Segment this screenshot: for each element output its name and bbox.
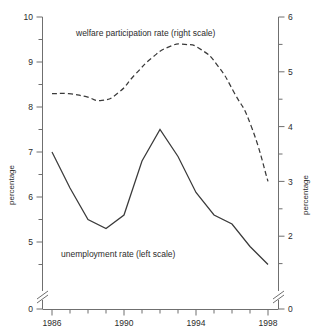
right-tick-label-6: 6 <box>288 12 293 22</box>
x-axis-minor-ticks <box>70 310 250 314</box>
series-group <box>52 44 268 265</box>
left-axis-title: percentage <box>7 164 16 205</box>
right-axis-title: percentage <box>301 174 310 215</box>
right-axis-major-ticks <box>279 17 285 309</box>
right-axis-group: 6 5 4 3 2 0 percentage <box>273 12 310 314</box>
right-tick-label-2: 2 <box>288 231 293 241</box>
right-tick-label-4: 4 <box>288 122 293 132</box>
left-tick-label-0: 0 <box>28 304 33 314</box>
x-tick-label-1990: 1990 <box>115 318 134 328</box>
series-unemployment-rate <box>52 130 268 265</box>
left-axis-group: 10 9 8 7 6 5 0 percentage <box>7 12 48 314</box>
left-tick-label-9: 9 <box>28 57 33 67</box>
left-tick-label-5: 5 <box>28 237 33 247</box>
right-tick-label-5: 5 <box>288 67 293 77</box>
left-tick-label-7: 7 <box>28 147 33 157</box>
left-tick-label-8: 8 <box>28 102 33 112</box>
line-chart: 10 9 8 7 6 5 0 percentage <box>0 0 322 333</box>
x-tick-label-1986: 1986 <box>43 318 62 328</box>
left-tick-label-10: 10 <box>24 12 34 22</box>
right-tick-label-3: 3 <box>288 177 293 187</box>
annotation-unemployment: unemployment rate (left scale) <box>61 249 175 259</box>
x-tick-label-1994: 1994 <box>187 318 206 328</box>
annotation-welfare-participation: welfare participation rate (right scale) <box>75 28 216 38</box>
left-axis-major-ticks <box>37 17 43 309</box>
right-tick-label-0: 0 <box>288 304 293 314</box>
x-axis-group: 1986 1990 1994 1998 <box>43 310 279 329</box>
x-tick-label-1998: 1998 <box>259 318 278 328</box>
series-welfare-participation-rate <box>52 44 268 181</box>
right-axis-minor-ticks <box>279 44 283 263</box>
chart-container: 10 9 8 7 6 5 0 percentage <box>0 0 322 333</box>
left-tick-label-6: 6 <box>28 192 33 202</box>
